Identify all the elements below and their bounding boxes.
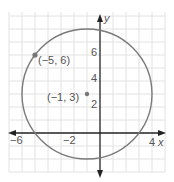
center-label: (−1, 3) <box>47 91 79 103</box>
y-axis-down-arrow-icon <box>97 170 103 178</box>
point-on-circle <box>32 52 37 57</box>
y-tick-6: 6 <box>91 46 97 58</box>
y-tick-2: 2 <box>91 98 97 110</box>
x-tick-4: 4 <box>149 136 155 148</box>
x-tick-neg6: −6 <box>10 134 23 146</box>
x-tick-neg2: −2 <box>63 134 76 146</box>
point-label: (−5, 6) <box>38 54 70 66</box>
coordinate-plane: (−5, 6) (−1, 3) y x 6 4 2 −6 −2 4 <box>0 0 174 182</box>
y-axis <box>97 14 103 178</box>
x-axis-label: x <box>157 136 164 148</box>
center-point <box>85 92 89 96</box>
y-axis-label: y <box>103 12 111 24</box>
y-axis-up-arrow-icon <box>97 14 103 22</box>
y-tick-4: 4 <box>91 72 97 84</box>
